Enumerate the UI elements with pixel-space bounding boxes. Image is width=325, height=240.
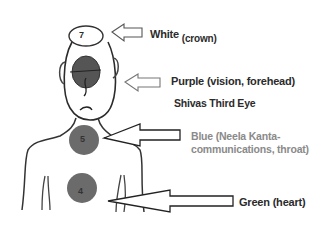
label-white: White (crown) — [150, 28, 217, 40]
chakra-number-5: 5 — [80, 134, 85, 144]
label-crown-text: (crown) — [182, 33, 217, 44]
label-purple: Purple (vision, forehead) — [171, 75, 295, 87]
arrow-third-eye — [125, 74, 160, 91]
chakra-number-4: 4 — [78, 186, 83, 196]
label-third-eye: Shivas Third Eye — [174, 97, 255, 109]
crown-chakra-7 — [69, 26, 103, 46]
arrow-heart — [108, 190, 233, 212]
arrow-crown — [112, 24, 142, 41]
label-green: Green (heart) — [239, 196, 305, 208]
label-white-text: White — [150, 28, 179, 40]
chakra-number-7: 7 — [79, 30, 84, 40]
label-blue: Blue (Neela Kanta-communications, throat… — [191, 130, 311, 156]
arrow-throat — [104, 124, 180, 146]
